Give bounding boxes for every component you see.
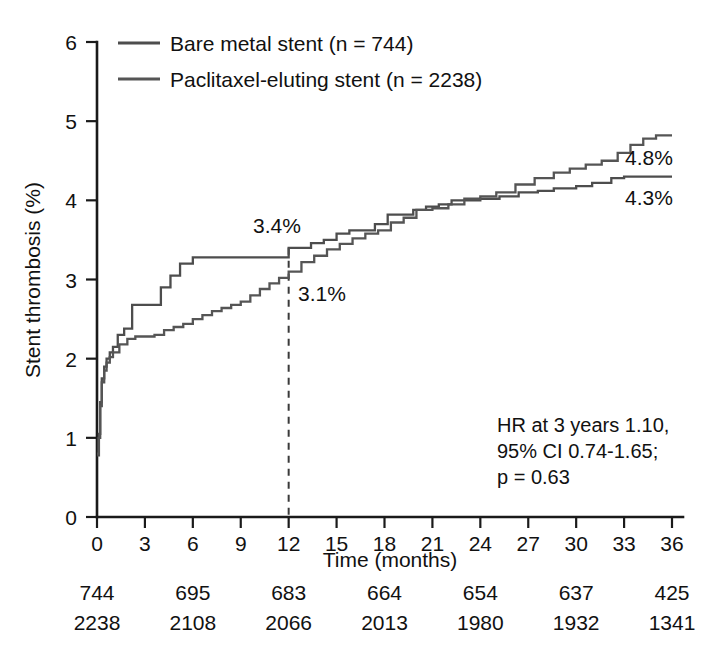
x-tick-label-33: 33 (612, 532, 635, 555)
statistics-line-1: HR at 3 years 1.10, (497, 414, 669, 436)
risk-count-0-0: 744 (79, 581, 114, 604)
x-tick-label-24: 24 (469, 532, 493, 555)
annotation-bms-12-months: 3.4% (253, 214, 301, 237)
km-chart-svg: 0123456 0369121518212427303336 Stent thr… (0, 0, 719, 649)
statistics-annotation: HR at 3 years 1.10, 95% CI 0.74-1.65; p … (497, 414, 669, 488)
y-tick-label-6: 6 (65, 31, 77, 54)
x-tick-label-12: 12 (277, 532, 300, 555)
y-tick-label-1: 1 (65, 427, 77, 450)
risk-count-0-5: 637 (559, 581, 594, 604)
risk-count-0-1: 695 (175, 581, 210, 604)
risk-count-1-4: 1980 (457, 611, 504, 634)
x-axis-ticks (97, 517, 672, 528)
risk-count-1-3: 2013 (361, 611, 408, 634)
legend-label-bare-metal-stent: Bare metal stent (n = 744) (170, 32, 413, 55)
x-tick-label-0: 0 (91, 532, 103, 555)
risk-count-1-1: 2108 (169, 611, 216, 634)
y-axis-title: Stent thrombosis (%) (21, 182, 44, 378)
risk-count-0-6: 425 (654, 581, 689, 604)
y-tick-label-3: 3 (65, 269, 77, 292)
y-axis-ticks (86, 42, 97, 517)
x-axis-title: Time (months) (323, 548, 458, 571)
annotation-bms-36-months: 4.3% (625, 186, 673, 209)
y-tick-label-2: 2 (65, 348, 77, 371)
y-tick-label-0: 0 (65, 506, 77, 529)
statistics-line-3: p = 0.63 (497, 466, 570, 488)
annotation-pes-36-months: 4.8% (625, 146, 673, 169)
x-tick-label-30: 30 (564, 532, 587, 555)
curve-paclitaxel-eluting-stent (97, 135, 672, 453)
risk-table-row-paclitaxel-eluting-stent: 2238210820662013198019321341 (74, 611, 696, 634)
risk-count-0-4: 654 (463, 581, 498, 604)
chart-legend: Bare metal stent (n = 744) Paclitaxel-el… (118, 32, 482, 91)
risk-table-row-bare-metal-stent: 744695683664654637425 (79, 581, 689, 604)
legend-label-paclitaxel-eluting-stent: Paclitaxel-eluting stent (n = 2238) (170, 68, 482, 91)
y-tick-label-5: 5 (65, 110, 77, 133)
statistics-line-2: 95% CI 0.74-1.65; (497, 440, 658, 462)
x-tick-label-3: 3 (139, 532, 151, 555)
numbers-at-risk-table: 744695683664654637425 223821082066201319… (74, 581, 696, 634)
annotation-pes-12-months: 3.1% (298, 282, 346, 305)
x-tick-label-27: 27 (517, 532, 540, 555)
x-tick-label-6: 6 (187, 532, 199, 555)
y-axis-tick-labels: 0123456 (65, 31, 77, 529)
km-curve-figure: 0123456 0369121518212427303336 Stent thr… (0, 0, 719, 649)
risk-count-1-0: 2238 (74, 611, 121, 634)
risk-count-1-6: 1341 (649, 611, 696, 634)
risk-count-1-2: 2066 (265, 611, 312, 634)
x-tick-label-9: 9 (235, 532, 247, 555)
y-tick-label-4: 4 (65, 189, 77, 212)
risk-count-0-2: 683 (271, 581, 306, 604)
x-tick-label-36: 36 (660, 532, 683, 555)
risk-count-1-5: 1932 (553, 611, 600, 634)
risk-count-0-3: 664 (367, 581, 402, 604)
